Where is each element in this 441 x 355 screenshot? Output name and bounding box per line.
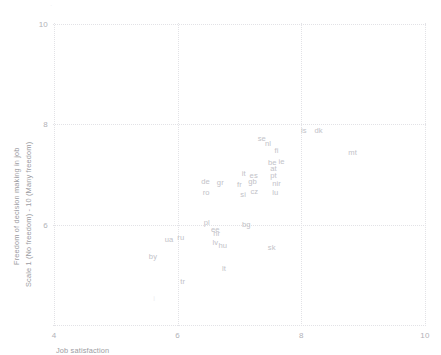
gridline-vertical: [301, 23, 302, 326]
data-point-label-de: de: [201, 176, 210, 185]
scatter-plot-figure: Freedom of decision making in job Scale …: [0, 0, 441, 355]
gridline-horizontal: [53, 124, 426, 125]
y-axis-title-line-1: Freedom of decision making in job: [12, 147, 21, 265]
y-tick-6: 6: [43, 220, 48, 229]
data-point-label-tr: tr: [180, 277, 185, 286]
data-point-label-pl: pl: [204, 217, 210, 226]
x-axis-title: Job satisfaction: [56, 346, 109, 355]
data-point-label-nir: nir: [272, 178, 281, 187]
x-axis-tick-labels: 46810: [54, 331, 425, 345]
top-edge-clipped-mark: ·: [50, 2, 52, 9]
data-point-label-sk: sk: [268, 242, 276, 251]
data-point-label-lv: lv: [213, 237, 219, 246]
data-point-label-bg: bg: [242, 219, 251, 228]
data-point-label-ro: ro: [203, 187, 210, 196]
data-point-label-by: by: [149, 251, 157, 260]
data-point-label-lt: lt: [222, 264, 226, 273]
gridline-horizontal: [53, 325, 426, 326]
data-point-label-ie: ie: [278, 157, 284, 166]
gridline-vertical: [178, 23, 179, 326]
x-tick-8: 8: [299, 331, 304, 340]
gridline-horizontal: [53, 24, 426, 25]
data-point-label-it: it: [242, 169, 246, 178]
y-axis-tick-labels: 6810: [28, 24, 48, 325]
data-point-label-is: is: [301, 126, 307, 135]
data-point-label-hu: hu: [218, 240, 227, 249]
y-tick-8: 8: [43, 120, 48, 129]
data-point-label-faint-i: i: [153, 294, 155, 303]
gridline-vertical: [54, 23, 55, 326]
data-point-label-mt: mt: [348, 147, 357, 156]
data-point-label-fr: fr: [237, 179, 242, 188]
data-point-label-gr: gr: [217, 178, 224, 187]
data-point-label-nl: nl: [265, 139, 271, 148]
y-tick-10: 10: [39, 20, 48, 29]
data-point-label-si: si: [240, 189, 246, 198]
data-point-label-ua: ua: [165, 234, 174, 243]
data-point-label-fi: fi: [275, 145, 279, 154]
gridline-horizontal: [53, 225, 426, 226]
data-point-label-lu: lu: [272, 187, 278, 196]
data-point-label-ru: ru: [177, 232, 184, 241]
data-point-label-cz: cz: [250, 187, 258, 196]
data-point-label-dk: dk: [315, 126, 323, 135]
data-point-label-gb: gb: [248, 176, 257, 185]
gridline-vertical: [425, 23, 426, 326]
plot-area: dkissenlfimtiebeatesitptgbdegrfrnirczlus…: [54, 24, 425, 325]
x-tick-6: 6: [175, 331, 180, 340]
x-tick-4: 4: [52, 331, 57, 340]
x-tick-10: 10: [420, 331, 429, 340]
